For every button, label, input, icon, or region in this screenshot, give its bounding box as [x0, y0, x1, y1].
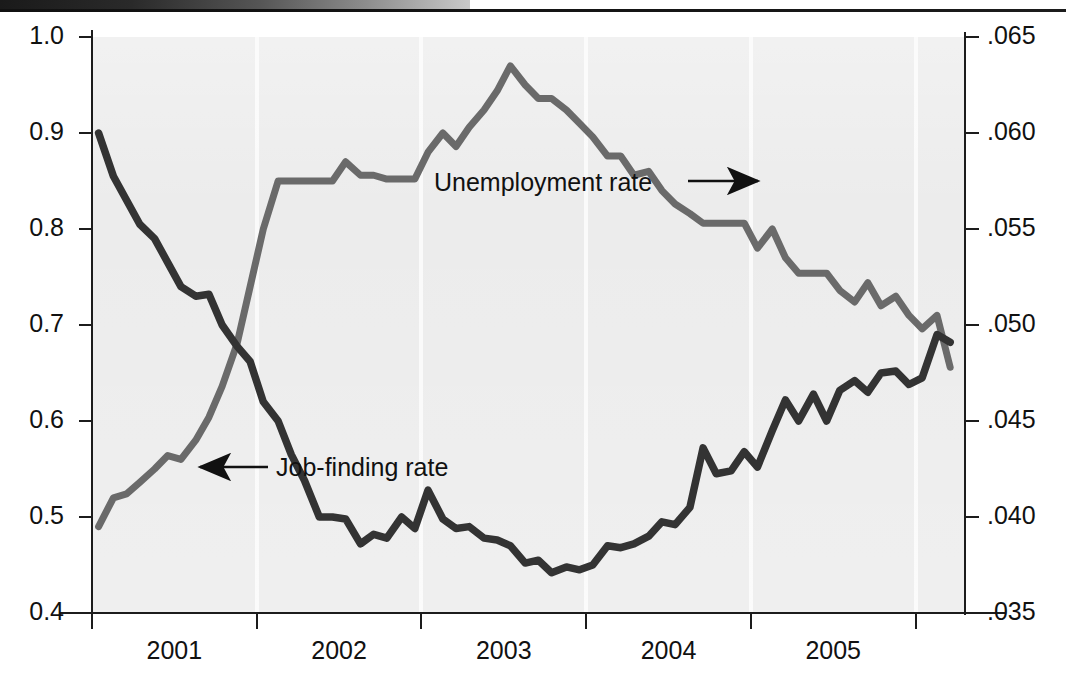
job-finding-rate-line: [99, 133, 951, 573]
job-finding-rate-annotation: Job-finding rate: [276, 453, 448, 482]
figure-page: 0.40.50.60.70.80.91.0 .035.040.045.050.0…: [0, 0, 1066, 687]
series-layer: [0, 0, 1066, 687]
unemployment-rate-line: [99, 66, 951, 527]
unemployment-rate-annotation: Unemployment rate: [434, 168, 652, 197]
